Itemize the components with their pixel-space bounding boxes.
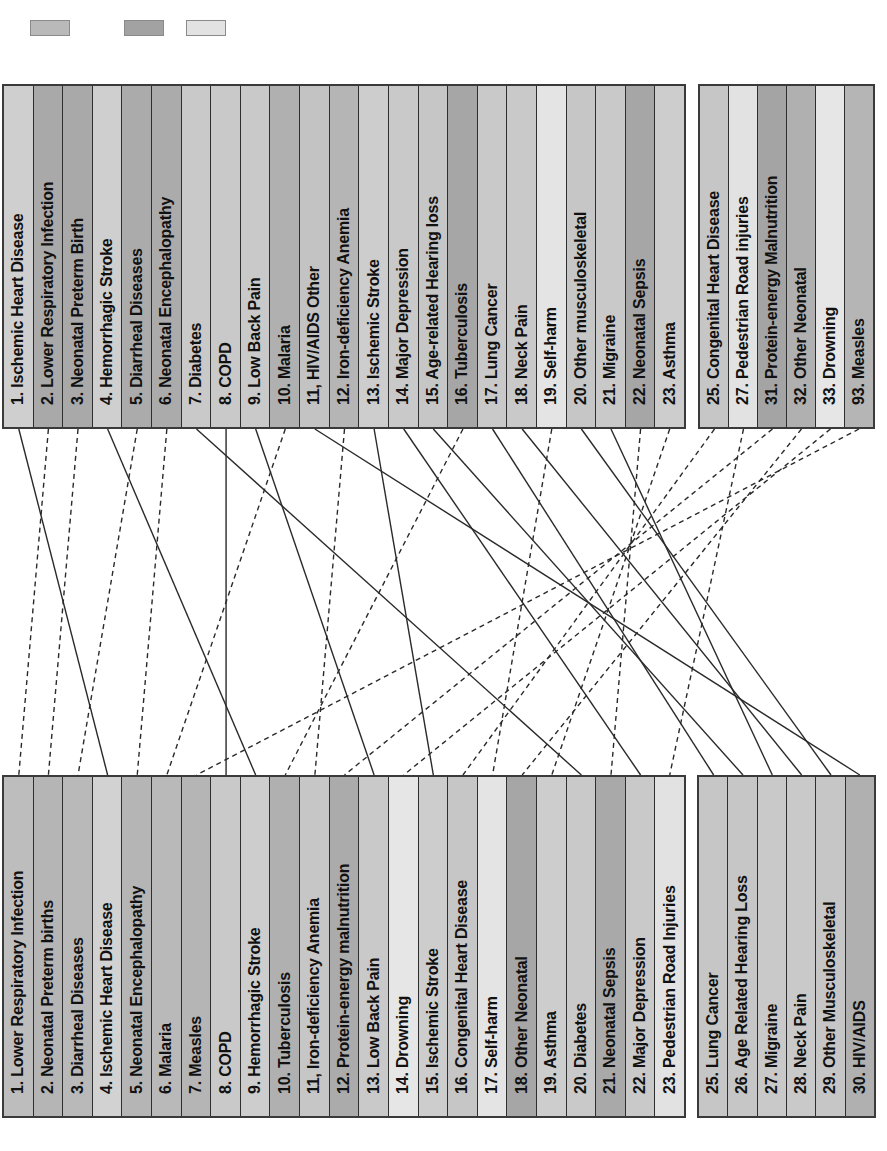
rank-cell: 6. Malaria [152, 777, 182, 1116]
rank-label: 6. Malaria [157, 1023, 175, 1094]
rank-label: 8. COPD [217, 1031, 235, 1094]
connector-line [552, 429, 670, 775]
rank-cell: 2. Neonatal Preterm births [34, 777, 64, 1116]
rank-cell: 20. Diabetes [567, 777, 597, 1116]
rank-label: 23. Pedestrian Road Injuries [661, 885, 679, 1094]
connector-line [433, 429, 743, 775]
rank-cell: 9. Hemorrhagic Stroke [241, 777, 271, 1116]
rank-cell: 13. Low Back Pain [359, 777, 389, 1116]
rank-label: 1. Lower Respiratory Infection [9, 871, 27, 1094]
connector-line [345, 429, 773, 775]
rank-cell: 15. Ischemic Stroke [419, 777, 449, 1116]
connector-line [108, 429, 256, 775]
connector-line [19, 429, 49, 775]
bottom-ranking-main-box: 1. Lower Respiratory Infection2. Neonata… [2, 775, 686, 1118]
rank-cell: 25. Lung Cancer [699, 777, 728, 1116]
rank-cell: 4. Ischemic Heart Disease [93, 777, 123, 1116]
connector-line [611, 429, 641, 775]
rank-label: 20. Diabetes [572, 1003, 590, 1094]
rank-cell: 21. Neonatal Sepsis [596, 777, 626, 1116]
rank-cell: 19. Asthma [537, 777, 567, 1116]
connector-line [137, 429, 167, 775]
rank-label: 18. Other Neonatal [513, 956, 531, 1094]
rank-label: 29. Other Musculoskeletal [821, 902, 839, 1094]
rank-label: 17. Self-harm [483, 996, 501, 1094]
connector-line [78, 429, 137, 775]
rank-label: 15. Ischemic Stroke [424, 948, 442, 1094]
rank-cell: 12. Protein-energy malnutrition [330, 777, 360, 1116]
rank-label: 27. Migraine [763, 1004, 781, 1094]
rank-cell: 18. Other Neonatal [507, 777, 537, 1116]
rank-label: 28. Neck Pain [792, 993, 810, 1094]
rank-label: 16. Congenital Heart Disease [453, 880, 471, 1094]
rank-label: 11, Iron-deficiency Anemia [305, 898, 323, 1094]
rank-label: 3. Diarrheal Diseases [69, 937, 87, 1094]
rank-label: 21. Neonatal Sepsis [601, 948, 619, 1095]
rank-cell: 8. COPD [211, 777, 241, 1116]
rank-label: 7. Measles [187, 1016, 205, 1094]
connector-line [315, 429, 345, 775]
rank-label: 25. Lung Cancer [704, 973, 722, 1094]
rank-cell: 28. Neck Pain [787, 777, 816, 1116]
rank-label: 10. Tuberculosis [276, 972, 294, 1094]
rank-cell: 26. Age Related Hearing Loss [728, 777, 757, 1116]
connector-line [404, 429, 831, 775]
rank-label: 4. Ischemic Heart Disease [98, 902, 116, 1094]
rank-cell: 29. Other Musculoskeletal [816, 777, 845, 1116]
rank-cell: 27. Migraine [758, 777, 787, 1116]
connector-line [581, 429, 831, 775]
connector-line [374, 429, 433, 775]
rank-label: 19. Asthma [542, 1011, 560, 1094]
connector-line [611, 429, 772, 775]
rank-cell: 17. Self-harm [478, 777, 508, 1116]
rank-cell: 10. Tuberculosis [270, 777, 300, 1116]
rank-cell: 1. Lower Respiratory Infection [4, 777, 34, 1116]
rank-cell: 30. HIV/AIDS [846, 777, 874, 1116]
rank-cell: 3. Diarrheal Diseases [63, 777, 93, 1116]
rank-label: 26. Age Related Hearing Loss [733, 875, 751, 1094]
rank-label: 12. Protein-energy malnutrition [335, 864, 353, 1094]
rank-label: 22. Major Depression [631, 937, 649, 1094]
rank-cell: 14. Drowning [389, 777, 419, 1116]
connector-line [48, 429, 78, 775]
rank-cell: 22. Major Depression [626, 777, 656, 1116]
rank-label: 2. Neonatal Preterm births [39, 900, 57, 1094]
connector-line [256, 429, 374, 775]
connector-line [196, 429, 581, 775]
rank-cell: 7. Measles [182, 777, 212, 1116]
rank-label: 9. Hemorrhagic Stroke [246, 927, 264, 1094]
rank-label: 13. Low Back Pain [365, 958, 383, 1094]
rank-cell: 11, Iron-deficiency Anemia [300, 777, 330, 1116]
connector-line [285, 429, 463, 775]
rank-label: 5. Neonatal Encephalopathy [128, 886, 146, 1094]
rank-label: 30. HIV/AIDS [851, 1000, 869, 1094]
rank-label: 14. Drowning [394, 996, 412, 1094]
rank-cell: 16. Congenital Heart Disease [448, 777, 478, 1116]
rank-cell: 23. Pedestrian Road Injuries [655, 777, 684, 1116]
rank-cell: 5. Neonatal Encephalopathy [122, 777, 152, 1116]
bottom-ranking-extra-box: 25. Lung Cancer26. Age Related Hearing L… [697, 775, 876, 1118]
